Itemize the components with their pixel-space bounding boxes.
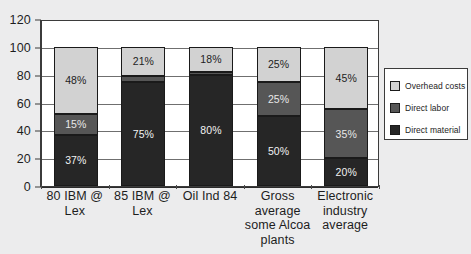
y-axis-tick-label: 0 [24, 180, 31, 194]
bar-segment-value-label: 50% [268, 146, 289, 157]
bar-segment-value-label: 18% [200, 54, 221, 65]
bar-group[interactable]: 37%15%48% [54, 19, 98, 186]
bar-segment-value-label: 21% [133, 56, 154, 67]
legend-item[interactable]: Direct labor [390, 97, 467, 119]
y-axis-tick-label: 100 [10, 41, 31, 55]
bar-segment-material[interactable]: 20% [324, 158, 368, 186]
x-axis-labels: 80 IBM @Lex85 IBM @LexOil Ind 84Grossave… [41, 189, 379, 251]
bar-segment-value-label: 75% [133, 129, 154, 140]
x-axis-tick-mark [244, 185, 245, 189]
bar-segment-labor[interactable]: 35% [324, 109, 368, 158]
bar-group[interactable]: 75%21% [121, 19, 165, 186]
y-axis-tick-label: 60 [17, 97, 31, 111]
bar-segment-value-label: 20% [336, 167, 357, 178]
bar-segment-value-label: 15% [65, 119, 86, 130]
bar-segment-value-label: 25% [268, 59, 289, 70]
x-axis-baseline [42, 187, 378, 188]
bar-segment-labor[interactable] [121, 76, 165, 82]
bar-segment-value-label: 48% [65, 75, 86, 86]
bar-segment-labor[interactable]: 15% [54, 114, 98, 135]
x-axis-tick-mark [41, 185, 42, 189]
y-axis-tick-label: 80 [17, 69, 31, 83]
bar-segment-labor[interactable]: 25% [257, 82, 301, 117]
bar-segment-overhead[interactable]: 25% [257, 47, 301, 82]
x-axis-tick-mark [379, 185, 380, 189]
y-axis: 020406080100120 [0, 20, 41, 187]
bar-segment-material[interactable]: 75% [121, 82, 165, 186]
bar-segment-value-label: 80% [200, 125, 221, 136]
x-axis-category-label-line: Lex [99, 204, 185, 219]
legend-label: Direct material [405, 125, 461, 135]
bar-segment-overhead[interactable]: 45% [324, 47, 368, 110]
legend-swatch-icon [390, 125, 400, 135]
bar-group[interactable]: 20%35%45% [324, 19, 368, 186]
x-axis-category-label-line: Electronic [302, 189, 388, 204]
bar-segment-overhead[interactable]: 21% [121, 47, 165, 76]
bar-segment-overhead[interactable]: 48% [54, 47, 98, 114]
bar-segment-value-label: 37% [65, 155, 86, 166]
y-axis-tick-label: 120 [10, 13, 31, 27]
bars-container: 37%15%48%75%21%80%18%50%25%25%20%35%45% [42, 21, 378, 186]
bar-group[interactable]: 80%18% [189, 19, 233, 186]
x-axis-category-label-line: average [302, 218, 388, 233]
x-axis-tick-mark [311, 185, 312, 189]
bar-segment-material[interactable]: 50% [257, 116, 301, 186]
x-axis-tick-mark [109, 185, 110, 189]
legend-swatch-icon [390, 103, 400, 113]
bar-segment-value-label: 45% [336, 73, 357, 84]
legend-item[interactable]: Direct material [390, 119, 467, 141]
y-axis-tick-label: 20 [17, 152, 31, 166]
bar-segment-value-label: 35% [336, 129, 357, 140]
x-axis-category-label: Electronicindustryaverage [302, 189, 388, 233]
x-axis-tick-mark [176, 185, 177, 189]
bar-segment-value-label: 25% [268, 94, 289, 105]
legend-item[interactable]: Overhead costs [390, 75, 467, 97]
chart-legend: Overhead costsDirect laborDirect materia… [384, 68, 468, 140]
y-axis-tick-label: 40 [17, 124, 31, 138]
bar-segment-material[interactable]: 37% [54, 135, 98, 186]
bar-segment-labor[interactable] [189, 72, 233, 75]
bar-segment-overhead[interactable]: 18% [189, 47, 233, 72]
x-axis-category-label-line: industry [302, 204, 388, 219]
chart-plot-area: 37%15%48%75%21%80%18%50%25%25%20%35%45% [41, 20, 379, 187]
bar-group[interactable]: 50%25%25% [257, 19, 301, 186]
legend-swatch-icon [390, 81, 400, 91]
legend-label: Overhead costs [405, 81, 465, 91]
x-axis-category-label-line: plants [235, 233, 321, 248]
legend-label: Direct labor [405, 103, 449, 113]
bar-segment-material[interactable]: 80% [189, 75, 233, 186]
